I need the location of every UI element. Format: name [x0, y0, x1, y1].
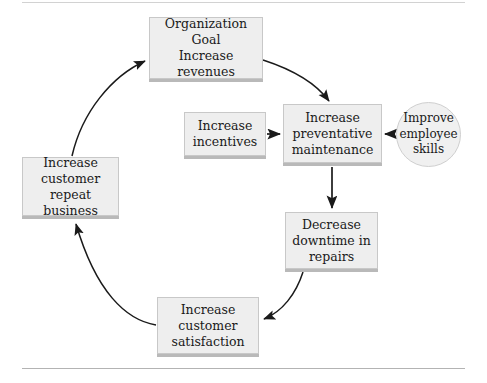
- node-increase-incentives[interactable]: Increase incentives: [184, 112, 266, 156]
- bottom-divider-rule: [22, 368, 465, 369]
- node-increase-preventative-maintenance[interactable]: Increase preventative maintenance: [283, 104, 382, 163]
- top-divider-rule: [22, 2, 465, 3]
- edge-satisfaction-to-repeat: [76, 224, 156, 325]
- node-increase-customer-repeat-business-label: Increase customer repeat business: [23, 155, 118, 219]
- node-improve-employee-skills-label: Improve employee skills: [399, 111, 457, 157]
- node-increase-preventative-maintenance-label: Increase preventative maintenance: [288, 110, 378, 158]
- edge-downtime-to-satisfaction: [264, 272, 303, 319]
- node-improve-employee-skills[interactable]: Improve employee skills: [396, 102, 461, 167]
- node-organization-goal-label: Organization Goal Increase revenues: [150, 16, 262, 80]
- node-increase-incentives-label: Increase incentives: [189, 118, 261, 150]
- diagram-canvas: Organization Goal Increase revenues Incr…: [0, 0, 487, 383]
- node-increase-customer-satisfaction-label: Increase customer satisfaction: [168, 302, 249, 350]
- node-decrease-downtime-in-repairs-label: Decrease downtime in repairs: [288, 217, 375, 265]
- edge-repeat-to-goal: [72, 61, 145, 156]
- node-decrease-downtime-in-repairs[interactable]: Decrease downtime in repairs: [285, 212, 378, 269]
- node-organization-goal[interactable]: Organization Goal Increase revenues: [149, 17, 263, 79]
- node-increase-customer-repeat-business[interactable]: Increase customer repeat business: [22, 157, 119, 216]
- node-increase-customer-satisfaction[interactable]: Increase customer satisfaction: [157, 297, 259, 354]
- edge-goal-to-preventative: [263, 60, 329, 101]
